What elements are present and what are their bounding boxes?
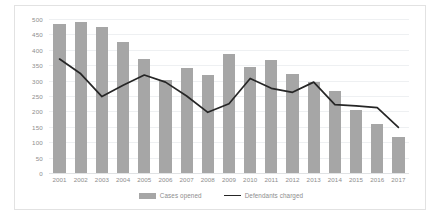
x-axis-tick-label: 2016 bbox=[370, 176, 384, 183]
y-axis-tick-label: 100 bbox=[32, 139, 43, 146]
legend-label-defendants-charged: Defendants charged bbox=[245, 192, 304, 199]
x-axis-tick-label: 2008 bbox=[201, 176, 215, 183]
x-axis-tick-label: 2003 bbox=[95, 176, 109, 183]
y-axis-tick-label: 150 bbox=[32, 123, 43, 130]
x-axis-tick-label: 2011 bbox=[264, 176, 278, 183]
x-axis-tick-label: 2004 bbox=[116, 176, 130, 183]
gridline bbox=[49, 173, 409, 174]
legend-label-cases-opened: Cases opened bbox=[160, 192, 202, 199]
y-axis-tick-label: 450 bbox=[32, 31, 43, 38]
x-axis-tick-label: 2013 bbox=[307, 176, 321, 183]
x-axis-tick-label: 2005 bbox=[137, 176, 151, 183]
y-axis-tick-label: 200 bbox=[32, 108, 43, 115]
y-axis-tick-label: 250 bbox=[32, 93, 43, 100]
y-axis: 500450400350300250200150100500 bbox=[15, 19, 47, 173]
y-axis-tick-label: 400 bbox=[32, 46, 43, 53]
y-axis-tick-label: 500 bbox=[32, 16, 43, 23]
legend-item-defendants-charged: Defendants charged bbox=[224, 192, 304, 199]
x-axis-tick-label: 2014 bbox=[328, 176, 342, 183]
chart-legend: Cases opened Defendants charged bbox=[15, 192, 427, 199]
x-axis: 2001200220032004200520062007200820092010… bbox=[49, 176, 409, 190]
line-swatch-icon bbox=[224, 195, 241, 196]
x-axis-tick-label: 2006 bbox=[158, 176, 172, 183]
x-axis-tick-label: 2017 bbox=[391, 176, 405, 183]
x-axis-tick-label: 2009 bbox=[222, 176, 236, 183]
line-series-defendants-charged bbox=[49, 19, 409, 173]
chart-container: 500450400350300250200150100500 200120022… bbox=[14, 5, 426, 210]
x-axis-tick-label: 2010 bbox=[243, 176, 257, 183]
y-axis-tick-label: 50 bbox=[36, 154, 43, 161]
y-axis-tick-label: 350 bbox=[32, 62, 43, 69]
x-axis-tick-label: 2007 bbox=[180, 176, 194, 183]
x-axis-tick-label: 2012 bbox=[285, 176, 299, 183]
bar-swatch-icon bbox=[139, 193, 156, 199]
y-axis-tick-label: 300 bbox=[32, 77, 43, 84]
x-axis-tick-label: 2015 bbox=[349, 176, 363, 183]
x-axis-tick-label: 2001 bbox=[52, 176, 66, 183]
legend-item-cases-opened: Cases opened bbox=[139, 192, 202, 199]
x-axis-tick-label: 2002 bbox=[74, 176, 88, 183]
y-axis-tick-label: 0 bbox=[39, 170, 43, 177]
plot-area bbox=[49, 19, 409, 173]
defendants-charged-line bbox=[60, 59, 399, 127]
